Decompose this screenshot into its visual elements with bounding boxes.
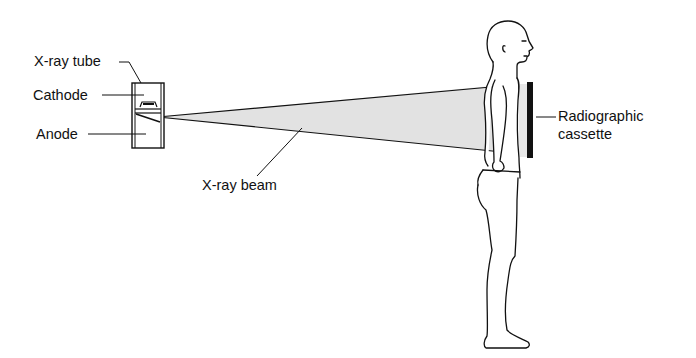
label-xray-beam: X-ray beam — [202, 177, 277, 193]
human-figure — [477, 21, 533, 348]
xray-diagram: X-ray tube Cathode Anode X-ray beam Radi… — [0, 0, 696, 358]
diagram-canvas — [0, 0, 696, 358]
xray-tube — [132, 83, 164, 148]
label-cassette-line1: Radiographic — [558, 108, 643, 124]
beam-behind-body — [519, 84, 527, 157]
radiographic-cassette — [527, 82, 533, 158]
label-anode: Anode — [36, 126, 78, 142]
label-xray-tube: X-ray tube — [34, 53, 101, 69]
label-cassette-line2: cassette — [558, 126, 612, 142]
xray-beam — [158, 85, 502, 152]
label-cathode: Cathode — [33, 87, 88, 103]
